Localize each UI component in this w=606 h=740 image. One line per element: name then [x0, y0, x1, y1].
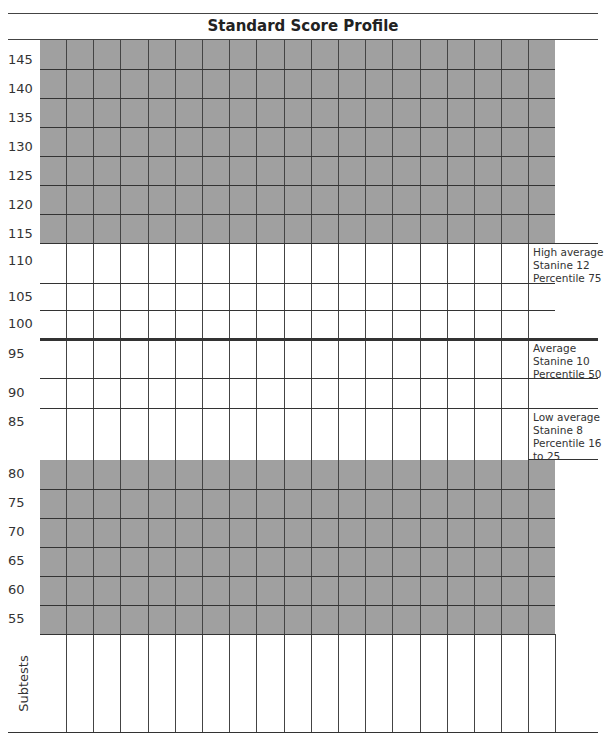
grid-vline [202, 460, 203, 732]
grid-vline [474, 243, 475, 460]
band-stanine: Stanine 8 [533, 424, 602, 437]
grid-vline [284, 460, 285, 732]
band-note-average: Average Stanine 10 Percentile 50 [533, 342, 602, 381]
band-note-high-average: High average Stanine 12 Percentile 75 [533, 246, 603, 285]
grid-vline [66, 460, 67, 732]
y-axis-label: 135 [8, 110, 32, 125]
grid-vline [256, 460, 257, 732]
grid-vline [256, 40, 257, 243]
grid-vline [338, 460, 339, 732]
y-axis-label: 75 [8, 495, 32, 510]
grid-vline [365, 243, 366, 460]
grid-vline [229, 243, 230, 460]
grid-hline [40, 156, 555, 157]
grid-hline [40, 283, 555, 284]
grid-vline [392, 243, 393, 460]
y-axis-label: 65 [8, 553, 32, 568]
band-note-low-average: Low average Stanine 8 Percentile 16 to 2… [533, 411, 602, 463]
page-title: Standard Score Profile [0, 17, 606, 35]
y-axis-label: 55 [8, 611, 32, 626]
y-axis-label: 130 [8, 139, 32, 154]
y-axis-label: 140 [8, 81, 32, 96]
y-axis-label: 85 [8, 414, 32, 429]
grid-vline [175, 243, 176, 460]
band-percentile: Percentile 75 [533, 272, 603, 285]
grid-vline [120, 243, 121, 460]
grid-hline [40, 489, 555, 490]
grid-vline [447, 460, 448, 732]
band-percentile-cont: to 25 [533, 450, 602, 463]
grid-vline [148, 243, 149, 460]
y-axis-label: 100 [8, 316, 32, 331]
grid-vline [528, 460, 529, 732]
grid-vline [501, 460, 502, 732]
y-axis-label: 90 [8, 385, 32, 400]
grid-vline [66, 40, 67, 243]
grid-hline [40, 576, 555, 577]
grid-hline [40, 185, 555, 186]
grid-vline [93, 40, 94, 243]
grid-hline [40, 518, 555, 519]
grid-vline [148, 460, 149, 732]
y-axis-label: 60 [8, 582, 32, 597]
band-label: Low average [533, 411, 602, 424]
y-axis-label: 105 [8, 289, 32, 304]
grid-vline [311, 460, 312, 732]
grid-vline [528, 40, 529, 243]
grid-vline [93, 460, 94, 732]
band-percentile: Percentile 16 [533, 437, 602, 450]
shaded-region-high [40, 40, 555, 243]
grid-vline [365, 460, 366, 732]
grid-hline [40, 127, 555, 128]
band-stanine: Stanine 12 [533, 259, 603, 272]
grid-hline [40, 69, 555, 70]
grid-hline [40, 634, 555, 635]
grid-vline [202, 243, 203, 460]
subtests-label: Subtests [16, 649, 31, 719]
grid-vline [229, 40, 230, 243]
band-label: High average [533, 246, 603, 259]
grid-vline [420, 243, 421, 460]
grid-vline [501, 40, 502, 243]
band-label: Average [533, 342, 602, 355]
band-percentile: Percentile 50 [533, 368, 602, 381]
mean-line [40, 338, 598, 341]
grid-vline [311, 40, 312, 243]
y-axis-label: 70 [8, 524, 32, 539]
grid-hline [40, 547, 555, 548]
grid-vline [284, 243, 285, 460]
y-axis-label: 95 [8, 346, 32, 361]
grid-vline [365, 40, 366, 243]
grid-vline [229, 460, 230, 732]
y-axis-label: 120 [8, 197, 32, 212]
grid-vline [501, 243, 502, 460]
grid-vline [528, 243, 529, 460]
y-axis-label: 145 [8, 52, 32, 67]
y-axis-label: 110 [8, 253, 32, 268]
grid-hline [40, 214, 555, 215]
grid-vline [392, 460, 393, 732]
grid-vline [338, 40, 339, 243]
grid-hline [40, 605, 555, 606]
grid-vline [420, 40, 421, 243]
grid-vline [338, 243, 339, 460]
grid-hline [40, 243, 598, 244]
grid-vline [175, 460, 176, 732]
grid-vline [555, 634, 556, 732]
grid-vline [120, 460, 121, 732]
grid-vline [311, 243, 312, 460]
grid-vline [202, 40, 203, 243]
grid-hline [40, 408, 598, 409]
y-axis-label: 80 [8, 466, 32, 481]
grid-vline [420, 460, 421, 732]
bottom-rule [8, 732, 598, 733]
y-axis-label: 125 [8, 168, 32, 183]
grid-hline [40, 378, 598, 379]
band-stanine: Stanine 10 [533, 355, 602, 368]
grid-vline [175, 40, 176, 243]
grid-vline [120, 40, 121, 243]
grid-vline [66, 243, 67, 460]
top-rule [8, 13, 598, 14]
grid-hline [40, 98, 555, 99]
grid-vline [474, 40, 475, 243]
